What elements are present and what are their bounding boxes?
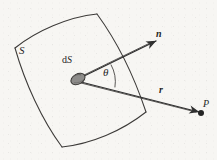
diagram-canvas [0,0,217,160]
angle-ray-upper [80,42,152,77]
area-element-patch [69,71,87,87]
surface-edge-top [15,14,97,48]
surface-edge-left [15,48,62,147]
area-element-ellipse [69,71,87,87]
area-element-label-s: S [67,54,72,65]
position-vector-label: r [159,85,163,95]
field-point-label: P [203,99,209,109]
angle-rays [80,42,196,112]
vector-surface-diagram: S dS θ n r P [0,0,217,160]
surface-edge-bottom [62,112,146,147]
position-vector-arrow [81,82,199,112]
angle-arc [111,65,115,88]
angle-label: θ [103,67,108,78]
field-point-dot [198,110,204,116]
normal-vector-label: n [156,29,162,39]
area-element-label: dS [62,55,72,65]
surface-label: S [19,45,25,56]
angle-ray-lower [81,83,196,112]
